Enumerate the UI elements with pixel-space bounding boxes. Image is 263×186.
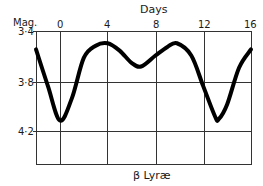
y-tick-4.2: 4·2 <box>18 127 34 137</box>
light-curve-chart <box>0 0 263 186</box>
light-curve <box>36 43 251 121</box>
x-tick-4: 4 <box>104 20 110 30</box>
chart-caption: β Lyræ <box>133 171 170 181</box>
x-tick-12: 12 <box>198 20 211 30</box>
plot-frame <box>37 32 252 165</box>
x-tick-16: 16 <box>244 20 257 30</box>
y-tick-3.8: 3·8 <box>18 78 34 88</box>
x-tick-8: 8 <box>153 20 159 30</box>
x-tick-0: 0 <box>57 20 63 30</box>
gridlines <box>33 31 251 164</box>
x-axis-title: Days <box>140 5 167 15</box>
y-tick-3.4: 3·4 <box>18 27 34 37</box>
